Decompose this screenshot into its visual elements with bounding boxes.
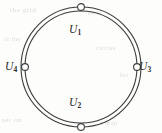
label-u4: U4 xyxy=(5,61,17,73)
label-u2: U2 xyxy=(69,97,81,109)
circle-diagram-svg xyxy=(0,0,162,133)
label-u3-sub: 3 xyxy=(148,65,152,74)
label-u3: U3 xyxy=(139,61,151,73)
node-marker-u4[interactable] xyxy=(22,64,29,71)
label-u1: U1 xyxy=(69,24,81,36)
label-u1-sub: 1 xyxy=(78,28,82,37)
node-marker-u1[interactable] xyxy=(78,4,85,11)
label-u4-sub: 4 xyxy=(14,65,18,74)
node-marker-u2[interactable] xyxy=(78,124,85,131)
label-u2-sub: 2 xyxy=(78,101,82,110)
figure-canvas: the grid in it at the circles set on a m… xyxy=(0,0,162,133)
node-group xyxy=(22,4,141,131)
label-u4-base: U xyxy=(5,60,13,72)
label-u3-base: U xyxy=(139,60,147,72)
label-u1-base: U xyxy=(69,23,77,35)
label-u2-base: U xyxy=(69,96,77,108)
